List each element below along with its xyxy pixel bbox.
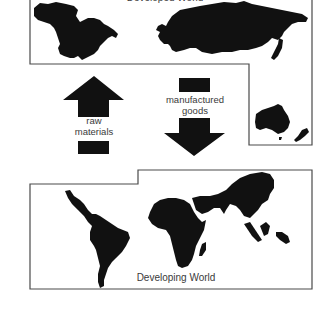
southeast-asia-shape — [244, 222, 262, 242]
madagascar-shape — [199, 242, 206, 256]
tasmania-shape — [279, 137, 282, 140]
raw-materials-label-line2: materials — [64, 126, 124, 137]
raw-materials-label: raw materials — [64, 115, 124, 137]
middle-east-asia-shape — [192, 172, 274, 218]
developed-world-label: Developed World — [120, 0, 210, 3]
north-america-shape — [34, 2, 118, 60]
indonesia-shape — [260, 222, 290, 244]
diagram-canvas — [0, 0, 319, 312]
latin-america-shape — [65, 190, 130, 288]
new-zealand-shape — [294, 128, 309, 142]
australia-shape — [255, 104, 290, 134]
raw-materials-label-line1: raw — [64, 115, 124, 126]
japan-shape — [271, 38, 283, 60]
manufactured-goods-arrow-tail — [179, 78, 210, 92]
developing-world-label: Developing World — [128, 272, 224, 283]
raw-materials-arrow-up — [63, 76, 124, 117]
manufactured-goods-label: manufactured goods — [160, 94, 230, 116]
manufactured-goods-label-line1: manufactured — [160, 94, 230, 105]
manufactured-goods-arrow-down — [164, 118, 225, 156]
manufactured-goods-label-line2: goods — [160, 105, 230, 116]
raw-materials-arrow-tail — [78, 141, 109, 154]
eurasia-shape — [156, 1, 308, 54]
